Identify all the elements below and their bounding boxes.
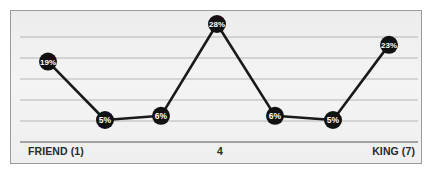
data-point: 6% xyxy=(266,107,284,125)
x-label-left: FRIEND (1) xyxy=(28,144,84,158)
data-label: 19% xyxy=(40,58,56,67)
data-point: 5% xyxy=(324,111,342,129)
x-label-middle: 4 xyxy=(217,144,223,158)
data-point: 6% xyxy=(152,107,170,125)
x-label-right: KING (7) xyxy=(372,144,415,158)
data-point: 23% xyxy=(380,36,398,54)
data-label: 5% xyxy=(99,115,112,125)
data-label: 6% xyxy=(155,111,168,121)
series-line xyxy=(48,24,389,120)
data-label: 5% xyxy=(327,115,340,125)
data-label: 6% xyxy=(269,111,282,121)
data-point: 19% xyxy=(39,53,57,71)
data-point: 28% xyxy=(208,15,226,33)
data-label: 23% xyxy=(381,41,397,50)
data-markers: 19%5%6%28%6%5%23% xyxy=(39,15,398,129)
data-label: 28% xyxy=(209,20,225,29)
data-point: 5% xyxy=(96,111,114,129)
data-line xyxy=(48,24,389,120)
gridlines xyxy=(20,37,418,142)
